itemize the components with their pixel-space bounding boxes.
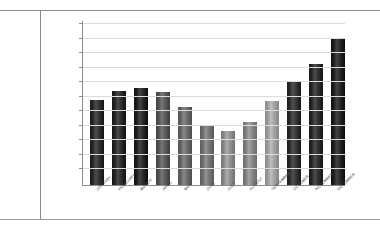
gridline	[82, 52, 345, 53]
bar-series	[82, 23, 345, 185]
gridline	[82, 110, 345, 111]
y-axis-tick	[79, 168, 83, 169]
y-axis-tick	[79, 23, 83, 24]
gridline	[82, 168, 345, 169]
y-axis-tick	[79, 154, 83, 155]
gridline	[82, 81, 345, 82]
y-axis-tick	[79, 38, 83, 39]
y-axis-tick	[79, 81, 83, 82]
bar-chart: JANUARYFEBRUARYMARCHAPRILMAYJUNEJULYAUGU…	[0, 0, 380, 230]
y-axis-tick	[79, 139, 83, 140]
gridline	[82, 38, 345, 39]
gridline	[82, 96, 345, 97]
y-axis-tick	[79, 125, 83, 126]
bar	[112, 91, 126, 185]
bar-fill	[112, 91, 126, 185]
bar-fill	[265, 101, 279, 185]
bar	[90, 100, 104, 185]
y-axis-tick	[79, 110, 83, 111]
gridline	[82, 125, 345, 126]
bar	[287, 82, 301, 185]
bar-fill	[90, 100, 104, 185]
gridline	[82, 154, 345, 155]
page-canvas: JANUARYFEBRUARYMARCHAPRILMAYJUNEJULYAUGU…	[0, 0, 380, 230]
bar	[331, 38, 345, 185]
y-axis-tick	[79, 96, 83, 97]
bar	[134, 88, 148, 185]
bar-fill	[287, 82, 301, 185]
bar	[265, 101, 279, 185]
x-axis-labels: JANUARYFEBRUARYMARCHAPRILMAYJUNEJULYAUGU…	[82, 188, 345, 228]
gridline	[82, 23, 345, 24]
bar-fill	[134, 88, 148, 185]
gridline	[82, 67, 345, 68]
bar-fill	[331, 38, 345, 185]
chart-plot-area	[82, 23, 345, 186]
bar	[178, 107, 192, 185]
bar-fill	[178, 107, 192, 185]
y-axis-tick	[79, 52, 83, 53]
gridline	[82, 139, 345, 140]
y-axis-tick	[79, 67, 83, 68]
